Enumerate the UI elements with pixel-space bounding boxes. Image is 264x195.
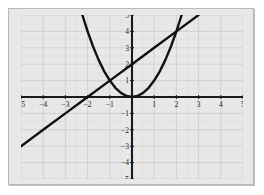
x-tick-label: −2: [84, 100, 92, 109]
y-tick-label: −4: [121, 158, 129, 167]
y-tick-label: −2: [121, 126, 129, 135]
x-tick-label: 3: [197, 100, 201, 109]
y-tick-label: 4: [125, 27, 129, 36]
y-tick-label: 5: [125, 15, 129, 20]
y-tick-label: 1: [125, 76, 129, 85]
graph-canvas: −5−4−3−2−112345−5−4−3−2−112345: [21, 15, 243, 179]
y-tick-label: 2: [125, 60, 129, 69]
x-tick-label: 5: [241, 100, 243, 109]
x-tick-label: −4: [39, 100, 47, 109]
x-tick-label: 4: [219, 100, 223, 109]
y-tick-label: 3: [125, 44, 129, 53]
y-tick-label: −5: [121, 175, 129, 179]
y-tick-label: −3: [121, 142, 129, 151]
x-tick-label: 2: [175, 100, 179, 109]
x-tick-label: −1: [106, 100, 114, 109]
plot-area: −5−4−3−2−112345−5−4−3−2−112345: [21, 15, 243, 179]
y-tick-label: −1: [121, 109, 129, 118]
figure-frame: −5−4−3−2−112345−5−4−3−2−112345: [8, 8, 254, 185]
x-tick-label: 1: [152, 100, 156, 109]
x-tick-label: −5: [21, 100, 25, 109]
x-tick-label: −3: [61, 100, 69, 109]
